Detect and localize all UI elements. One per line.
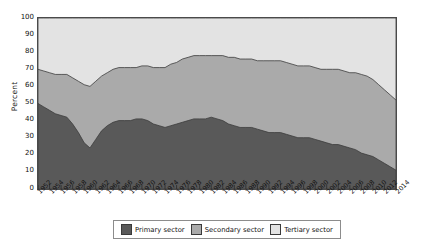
y-axis-tick: 70 (16, 65, 34, 72)
chart-legend: Primary sectorSecondary sectorTertiary s… (113, 220, 341, 239)
legend-item[interactable]: Tertiary sector (270, 224, 333, 235)
legend-label: Tertiary sector (284, 226, 333, 234)
legend-swatch-icon (270, 224, 281, 235)
y-axis-tick: 20 (16, 150, 34, 157)
plot-area (37, 17, 397, 190)
y-axis-tick: 0 (16, 185, 34, 192)
y-axis-tick: 60 (16, 82, 34, 89)
legend-item[interactable]: Secondary sector (191, 224, 264, 235)
y-axis-tick: 80 (16, 48, 34, 55)
stacked-area-series (38, 18, 396, 189)
legend-item[interactable]: Primary sector (121, 224, 185, 235)
y-axis-tick: 90 (16, 31, 34, 38)
legend-label: Secondary sector (205, 226, 264, 234)
legend-label: Primary sector (135, 226, 185, 234)
y-axis-tick: 40 (16, 116, 34, 123)
y-axis-tick: 10 (16, 167, 34, 174)
legend-swatch-icon (191, 224, 202, 235)
y-axis-tick: 30 (16, 133, 34, 140)
legend-swatch-icon (121, 224, 132, 235)
y-axis-tick: 100 (16, 14, 34, 21)
chart-root: Percent 1009080706050403020100 195219541… (0, 0, 431, 249)
y-axis-tick: 50 (16, 99, 34, 106)
y-axis-tick-labels: 1009080706050403020100 (14, 0, 34, 249)
